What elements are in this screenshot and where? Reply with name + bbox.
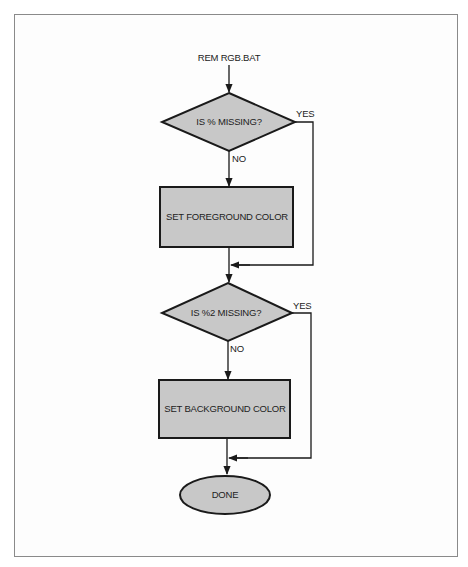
decision1-yes-label: YES	[296, 108, 314, 119]
start-label: REM RGB.BAT	[198, 52, 261, 63]
decision2-no-label: NO	[230, 343, 244, 354]
decision1-label: IS % MISSING?	[196, 116, 262, 127]
decision1-no-label: NO	[232, 153, 246, 164]
decision2-label: IS %2 MISSING?	[191, 307, 262, 318]
process2-label: SET BACKGROUND COLOR	[164, 403, 285, 414]
decision2-yes-label: YES	[293, 300, 311, 311]
process1-label: SET FOREGROUND COLOR	[166, 211, 288, 222]
flowchart-canvas	[0, 0, 468, 567]
done-label: DONE	[212, 489, 239, 500]
